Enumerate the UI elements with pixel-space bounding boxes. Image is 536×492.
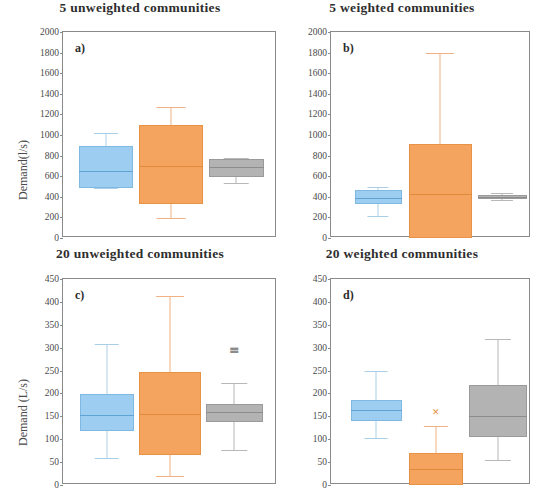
panel-a-ytick-800: 800 (45, 151, 59, 161)
box-body (409, 144, 472, 238)
panel-a-ytick-1400: 1400 (40, 89, 59, 99)
ytick-mark (328, 279, 331, 280)
ytick-mark (60, 462, 63, 463)
panel-d-title: 20 weighted communities (278, 246, 526, 262)
panel-d-box-gray (469, 279, 527, 483)
ytick-mark (60, 94, 63, 95)
ytick-mark (328, 325, 331, 326)
ytick-mark (328, 485, 331, 486)
whisker-cap-upper (157, 107, 186, 108)
whisker-cap-upper (365, 371, 388, 372)
whisker-cap-upper (94, 133, 118, 134)
panel-a-ytick-200: 200 (45, 212, 59, 222)
ytick-mark (60, 217, 63, 218)
whisker-cap-upper (367, 187, 388, 188)
panel-c-ytick-100: 100 (45, 434, 59, 444)
ytick-mark (60, 302, 63, 303)
panel-b-ytick-200: 200 (313, 212, 327, 222)
median-line (355, 198, 402, 199)
panel-a-box-gray (209, 32, 264, 236)
panel-c-ytick-0: 0 (54, 480, 59, 490)
panel-c-ytick-350: 350 (45, 320, 59, 330)
median-line (139, 414, 201, 415)
panel-b-title: 5 weighted communities (278, 0, 526, 16)
panel-a-plot-area: a) 0200400600800100012001400160018002000 (62, 31, 276, 237)
ytick-mark (60, 73, 63, 74)
panel-a-ytick-400: 400 (45, 192, 59, 202)
whisker-cap-lower (156, 476, 184, 477)
ytick-mark (328, 371, 331, 372)
whisker-cap-lower (485, 460, 511, 461)
whisker-upper (169, 296, 170, 372)
whisker-cap-lower (94, 188, 118, 189)
panel-c: 20 unweighted communities Demand (L/s) c… (0, 246, 280, 492)
ytick-mark (328, 348, 331, 349)
panel-c-ytick-450: 450 (45, 274, 59, 284)
ytick-mark (60, 197, 63, 198)
panel-a-ytick-1600: 1600 (40, 68, 59, 78)
median-line (80, 415, 135, 416)
box-body (469, 385, 527, 438)
whisker-upper (105, 133, 106, 146)
whisker-cap-lower (491, 200, 513, 201)
panel-b-ytick-800: 800 (313, 151, 327, 161)
whisker-cap-lower (365, 438, 388, 439)
box-body (139, 125, 203, 204)
median-line (139, 166, 203, 167)
panel-a-ytick-600: 600 (45, 171, 59, 181)
median-line (469, 416, 527, 417)
whisker-upper (436, 426, 437, 453)
panel-b-letter: b) (343, 41, 354, 56)
panel-d-ytick-350: 350 (313, 320, 327, 330)
panel-d-box-orange: ✕ (409, 279, 463, 483)
panel-c-ytick-200: 200 (45, 388, 59, 398)
box-body (206, 404, 263, 422)
whisker-cap-upper (156, 296, 184, 297)
panel-d-ytick-100: 100 (313, 434, 327, 444)
ytick-mark (60, 393, 63, 394)
ytick-mark (328, 416, 331, 417)
panel-d-ytick-150: 150 (313, 411, 327, 421)
ytick-mark (328, 217, 331, 218)
median-line (351, 410, 402, 411)
panel-c-plot-area: c) 050100150200250300350400450▬▬ (62, 278, 276, 484)
panel-a-box-orange (139, 32, 203, 236)
median-line (79, 171, 133, 172)
panel-c-ytick-400: 400 (45, 297, 59, 307)
panel-a-ytick-1800: 1800 (40, 48, 59, 58)
panel-a-y-axis-label: Demand(l/s) (16, 140, 31, 200)
panel-b-ytick-1600: 1600 (308, 68, 327, 78)
whisker-cap-lower (157, 218, 186, 219)
panel-b-ytick-1200: 1200 (308, 109, 327, 119)
ytick-mark (60, 114, 63, 115)
boxplot-figure: 5 unweighted communities Demand(l/s) a) … (0, 0, 536, 492)
panel-b-ytick-400: 400 (313, 192, 327, 202)
whisker-cap-upper (485, 339, 511, 340)
panel-d-ytick-450: 450 (313, 274, 327, 284)
panel-b-box-orange (409, 32, 472, 236)
panel-c-title: 20 unweighted communities (0, 246, 280, 262)
panel-a-title: 5 unweighted communities (0, 0, 280, 16)
panel-b-plot-area: b) 0200400600800100012001400160018002000 (330, 31, 530, 237)
panel-d-plot-area: d) 050100150200250300350400450✕ (330, 278, 530, 484)
panel-b-ytick-600: 600 (313, 171, 327, 181)
ytick-mark (328, 114, 331, 115)
ytick-mark (328, 302, 331, 303)
panel-b: 5 weighted communities b) 02004006008001… (268, 0, 536, 246)
ytick-mark (60, 156, 63, 157)
ytick-mark (60, 348, 63, 349)
whisker-cap-upper (95, 344, 120, 345)
whisker-upper (498, 339, 499, 385)
box-body (79, 146, 133, 187)
ytick-mark (328, 156, 331, 157)
ytick-mark (60, 325, 63, 326)
panel-c-ytick-50: 50 (50, 457, 60, 467)
whisker-cap-upper (491, 193, 513, 194)
ytick-mark (60, 416, 63, 417)
panel-c-ytick-150: 150 (45, 411, 59, 421)
whisker-cap-lower (95, 458, 120, 459)
panel-b-ytick-1000: 1000 (308, 130, 327, 140)
ytick-mark (328, 73, 331, 74)
whisker-lower (171, 204, 172, 218)
whisker-lower (378, 204, 379, 216)
